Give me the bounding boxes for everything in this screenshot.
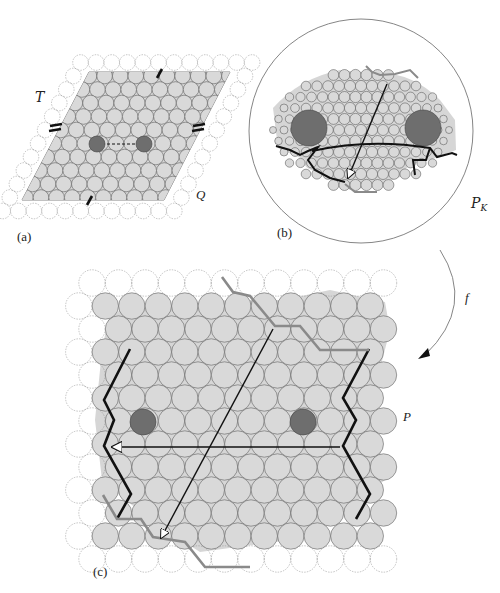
packing-circle (355, 124, 366, 135)
packing-circle (87, 176, 103, 192)
packing-circle (96, 190, 112, 206)
packing-circle (119, 293, 145, 319)
caption-b: (b) (277, 226, 292, 239)
packing-circle (172, 163, 188, 179)
packing-circle (307, 92, 317, 102)
circle-packing-a (18, 68, 238, 205)
packing-circle (278, 293, 304, 319)
packing-circle (211, 408, 237, 434)
packing-circle (47, 163, 63, 179)
packing-circle (79, 500, 105, 526)
packing-circle (344, 102, 355, 113)
packing-circle (370, 362, 396, 388)
packing-circle (198, 293, 224, 319)
packing-circle (148, 149, 164, 165)
packing-circle (291, 362, 317, 388)
packing-circle (83, 95, 99, 111)
packing-circle (251, 431, 277, 457)
packing-circle (378, 147, 389, 158)
packing-circle (166, 55, 182, 71)
packing-circle (357, 477, 383, 503)
packing-circle (229, 55, 245, 71)
dark-circle-right-a (136, 136, 152, 152)
packing-circle (237, 68, 253, 84)
packing-circle (280, 126, 288, 134)
packing-circle (291, 546, 317, 572)
packing-circle (366, 168, 377, 179)
packing-circle (167, 203, 183, 219)
packing-circle (120, 55, 136, 71)
dark-circle-left-c (130, 409, 156, 435)
packing-circle (304, 431, 330, 457)
packing-circle (383, 158, 394, 169)
packing-circle (73, 203, 89, 219)
packing-circle (185, 454, 211, 480)
packing-circle (312, 81, 322, 91)
packing-circle (357, 523, 383, 549)
packing-circle (328, 70, 339, 81)
dark-circle-right-c (290, 409, 316, 435)
packing-circle (339, 70, 350, 81)
packing-circle (389, 169, 400, 180)
packing-circle (145, 477, 171, 503)
packing-circle (317, 546, 343, 572)
packing-circle (92, 523, 118, 549)
packing-circle (344, 362, 370, 388)
packing-circle (394, 92, 404, 102)
packing-circle (344, 546, 370, 572)
caption-a: (a) (17, 230, 31, 243)
packing-circle (182, 55, 198, 71)
packing-circle (176, 95, 192, 111)
packing-circle (389, 147, 400, 158)
packing-circle (251, 477, 277, 503)
packing-circle (118, 176, 134, 192)
packing-circle (428, 93, 436, 101)
packing-circle (181, 176, 197, 192)
packing-circle (355, 80, 366, 91)
packing-circle (84, 122, 100, 138)
packing-circle (132, 362, 158, 388)
packing-circle (26, 203, 42, 219)
packing-circle (366, 146, 377, 157)
packing-circle (105, 82, 121, 98)
packing-circle (264, 546, 290, 572)
packing-circle (372, 158, 383, 169)
packing-circle (158, 408, 184, 434)
packing-circle (62, 136, 78, 152)
packing-circle (175, 68, 191, 84)
packing-circle (40, 176, 56, 192)
packing-circle (317, 362, 343, 388)
packing-circle (134, 176, 150, 192)
packing-circle (66, 293, 92, 319)
packing-circle (278, 385, 304, 411)
quad-label: Q (196, 188, 205, 201)
packing-circle (344, 270, 370, 296)
packing-circle (304, 293, 330, 319)
packing-circle (328, 92, 339, 103)
packing-circle (172, 431, 198, 457)
packing-circle (178, 122, 194, 138)
packing-circle (16, 163, 32, 179)
packing-circle (185, 362, 211, 388)
packing-circle (169, 109, 185, 125)
dark-circle-left-b (291, 110, 327, 146)
packing-circle (370, 454, 396, 480)
packing-circle (199, 82, 215, 98)
packing-circle (145, 293, 171, 319)
packing-circle (79, 316, 105, 342)
packing-circle (428, 159, 436, 167)
packing-circle (119, 523, 145, 549)
packing-circle (121, 82, 137, 98)
packing-circle (225, 339, 251, 365)
packing-circle (145, 431, 171, 457)
packing-circle (251, 385, 277, 411)
packing-circle (366, 80, 377, 91)
packing-circle (213, 55, 229, 71)
packing-circle (145, 339, 171, 365)
packing-circle (389, 81, 400, 92)
packing-circle (132, 316, 158, 342)
packing-circle (92, 339, 118, 365)
packing-circle (357, 385, 383, 411)
packing-circle (264, 408, 290, 434)
packing-circle (251, 293, 277, 319)
